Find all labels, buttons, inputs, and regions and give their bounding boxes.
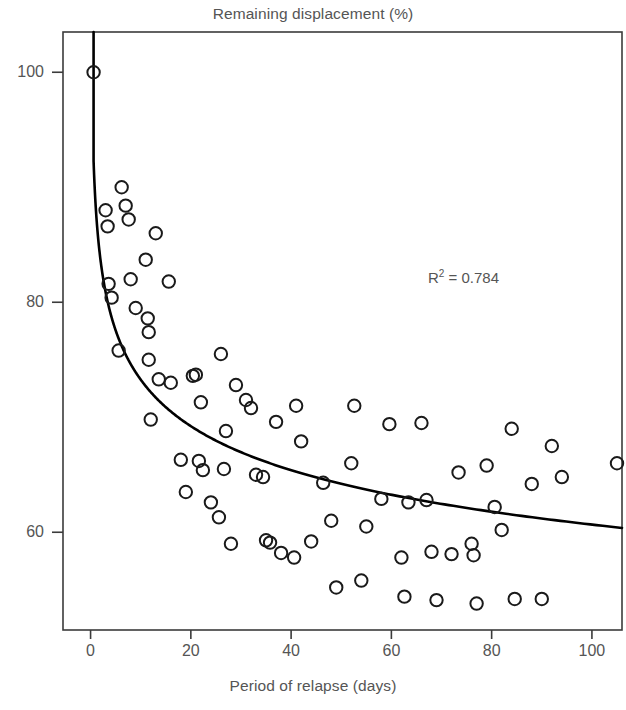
data-point [150, 227, 162, 239]
data-point [101, 220, 113, 232]
data-point [153, 373, 165, 385]
data-points [87, 66, 623, 610]
data-point [295, 435, 307, 447]
data-point [145, 413, 157, 425]
data-point [220, 425, 232, 437]
data-point [330, 581, 342, 593]
data-point [290, 400, 302, 412]
axis-ticks [52, 72, 592, 639]
data-point [143, 326, 155, 338]
data-point [470, 597, 482, 609]
data-point [257, 471, 269, 483]
plot-area [0, 0, 626, 710]
data-point [130, 302, 142, 314]
data-point [99, 204, 111, 216]
data-point [495, 524, 507, 536]
data-point [215, 348, 227, 360]
data-point [445, 548, 457, 560]
data-point [205, 496, 217, 508]
data-point [288, 551, 300, 563]
data-point [163, 275, 175, 287]
data-point [180, 486, 192, 498]
data-point [230, 379, 242, 391]
data-point [509, 593, 521, 605]
data-point [526, 478, 538, 490]
data-point [536, 593, 548, 605]
data-point [264, 536, 276, 548]
data-point [122, 213, 134, 225]
data-point [165, 377, 177, 389]
data-point [360, 520, 372, 532]
data-point [345, 457, 357, 469]
data-point [218, 463, 230, 475]
data-point [425, 546, 437, 558]
data-point [355, 574, 367, 586]
data-point [124, 273, 136, 285]
data-point [556, 471, 568, 483]
data-point [348, 400, 360, 412]
data-point [467, 549, 479, 561]
data-point [452, 466, 464, 478]
data-point [546, 440, 558, 452]
data-point [325, 515, 337, 527]
data-point [430, 594, 442, 606]
data-point [175, 454, 187, 466]
plot-frame [63, 32, 622, 630]
data-point [506, 423, 518, 435]
data-point [115, 181, 127, 193]
data-point [225, 538, 237, 550]
data-point [415, 417, 427, 429]
data-point [275, 547, 287, 559]
data-point [270, 416, 282, 428]
data-point [395, 551, 407, 563]
scatter-chart-figure: Remaining displacement (%) Period of rel… [0, 0, 626, 710]
data-point [398, 590, 410, 602]
data-point [213, 511, 225, 523]
data-point [140, 254, 152, 266]
data-point [142, 312, 154, 324]
data-point [305, 535, 317, 547]
data-point [119, 199, 131, 211]
regression-curve [94, 32, 622, 528]
data-point [480, 459, 492, 471]
data-point [383, 418, 395, 430]
data-point [195, 396, 207, 408]
data-point [143, 354, 155, 366]
data-point [375, 493, 387, 505]
data-point [465, 538, 477, 550]
